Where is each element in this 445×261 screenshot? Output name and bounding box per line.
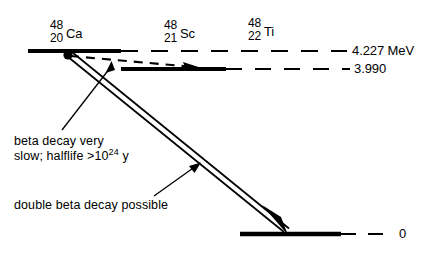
- beta-decay-note-line1: beta decay very: [14, 134, 104, 148]
- nuclide-label-ti48: 48 22 Ti: [248, 18, 274, 44]
- double-beta-note: double beta decay possible: [14, 198, 168, 213]
- beta-decay-note-line2-exponent: 24: [109, 147, 119, 157]
- mass-number-sc48: 48: [164, 19, 177, 31]
- beta-note-leader-line: [62, 68, 110, 130]
- atomic-number-ti48: 22: [248, 30, 261, 42]
- element-symbol-ca48: Ca: [66, 26, 82, 41]
- atomic-number-ca48: 20: [50, 32, 63, 44]
- energy-level-diagram: 48 20 Ca 48 21 Sc 48 22 Ti 4.227 MeV 3.9…: [0, 0, 445, 261]
- transition-origin-dot: [63, 50, 72, 59]
- nuclide-label-sc48: 48 21 Sc: [164, 20, 195, 46]
- double-beta-note-leader-arrowhead: [189, 163, 201, 174]
- element-symbol-ti48: Ti: [264, 24, 274, 39]
- nuclide-label-ca48: 48 20 Ca: [50, 20, 82, 46]
- nuclide-indices-ca48: 48 20: [50, 20, 65, 46]
- beta-note-leader-arrowhead: [106, 61, 116, 73]
- double-beta-note-leader-line: [154, 166, 196, 196]
- energy-label-3990: 3.990: [354, 61, 386, 76]
- nuclide-indices-sc48: 48 21: [164, 20, 179, 46]
- beta-decay-note-line2-base: 10: [94, 149, 108, 163]
- mass-number-ca48: 48: [50, 19, 63, 31]
- beta-decay-note-line2-pre: slow; halflife >: [14, 149, 94, 163]
- energy-label-zero: 0: [399, 226, 406, 241]
- beta-decay-note-line2-post: y: [122, 149, 128, 163]
- atomic-number-sc48: 21: [164, 32, 177, 44]
- element-symbol-sc48: Sc: [180, 26, 195, 41]
- mass-number-ti48: 48: [248, 17, 261, 29]
- beta-decay-note: beta decay very slow; halflife >1024 y: [14, 134, 129, 164]
- nuclide-indices-ti48: 48 22: [248, 18, 263, 44]
- energy-label-4227: 4.227 MeV: [352, 43, 414, 58]
